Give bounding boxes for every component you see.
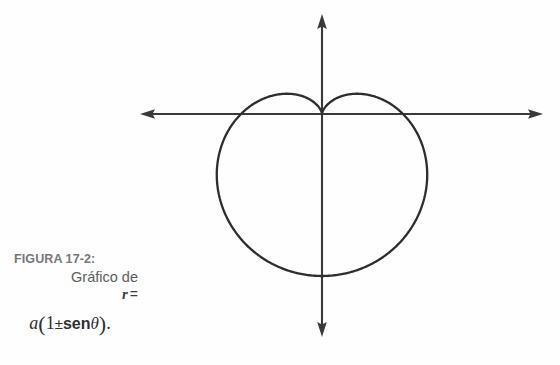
horizontal-axis [140, 109, 543, 119]
formula-open-paren: ( [38, 311, 45, 336]
figure-caption: FIGURA 17-2: Gráfico de r= a(1±senθ). [6, 252, 140, 337]
figure-container: FIGURA 17-2: Gráfico de r= a(1±senθ). [0, 0, 560, 365]
equation-variable-r: r [122, 286, 128, 302]
figure-caption-description: Gráfico de [6, 269, 140, 285]
figure-caption-equation-lead: r= [6, 286, 140, 303]
formula-one: 1 [46, 313, 55, 333]
figure-caption-title: FIGURA 17-2: [14, 252, 140, 266]
formula-function-sen: sen [63, 315, 91, 332]
figure-caption-formula: a(1±senθ). [6, 312, 140, 337]
formula-coefficient-a: a [29, 313, 38, 333]
formula-plus-minus: ± [55, 315, 63, 332]
formula-period: . [106, 313, 111, 333]
equation-equals-sign: = [128, 286, 138, 302]
vertical-axis [317, 14, 327, 337]
formula-angle-theta: θ [90, 314, 98, 333]
